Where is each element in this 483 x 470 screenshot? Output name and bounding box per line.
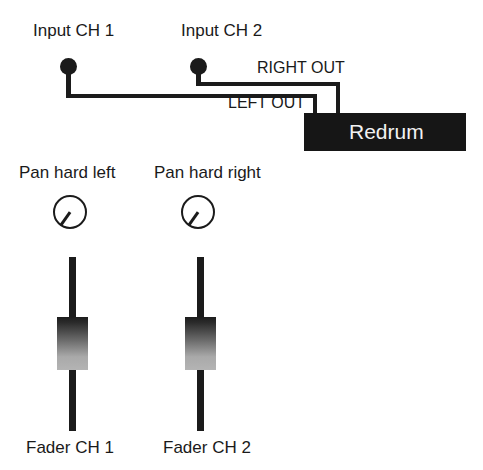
cable-ch2-horizontal (196, 82, 340, 87)
pan-ch1-knob-pointer-icon (60, 211, 71, 226)
pan-ch2-knob-pointer-icon (188, 211, 199, 226)
right-out-label: RIGHT OUT (257, 59, 345, 77)
redrum-device-label: Redrum (349, 120, 424, 144)
pan-ch2-label: Pan hard right (154, 163, 261, 183)
pan-ch2-knob[interactable] (181, 195, 215, 229)
routing-diagram: Input CH 1 Input CH 2 RIGHT OUT LEFT OUT… (0, 0, 483, 470)
input-ch2-label: Input CH 2 (181, 21, 262, 41)
left-out-label: LEFT OUT (228, 94, 305, 112)
fader-ch2-handle[interactable] (185, 317, 216, 370)
fader-ch2-label: Fader CH 2 (163, 438, 251, 458)
fader-ch1-handle[interactable] (57, 317, 88, 370)
fader-ch1-label: Fader CH 1 (26, 438, 114, 458)
input-ch1-label: Input CH 1 (33, 21, 114, 41)
pan-ch1-label: Pan hard left (19, 163, 115, 183)
pan-ch1-knob[interactable] (53, 195, 87, 229)
